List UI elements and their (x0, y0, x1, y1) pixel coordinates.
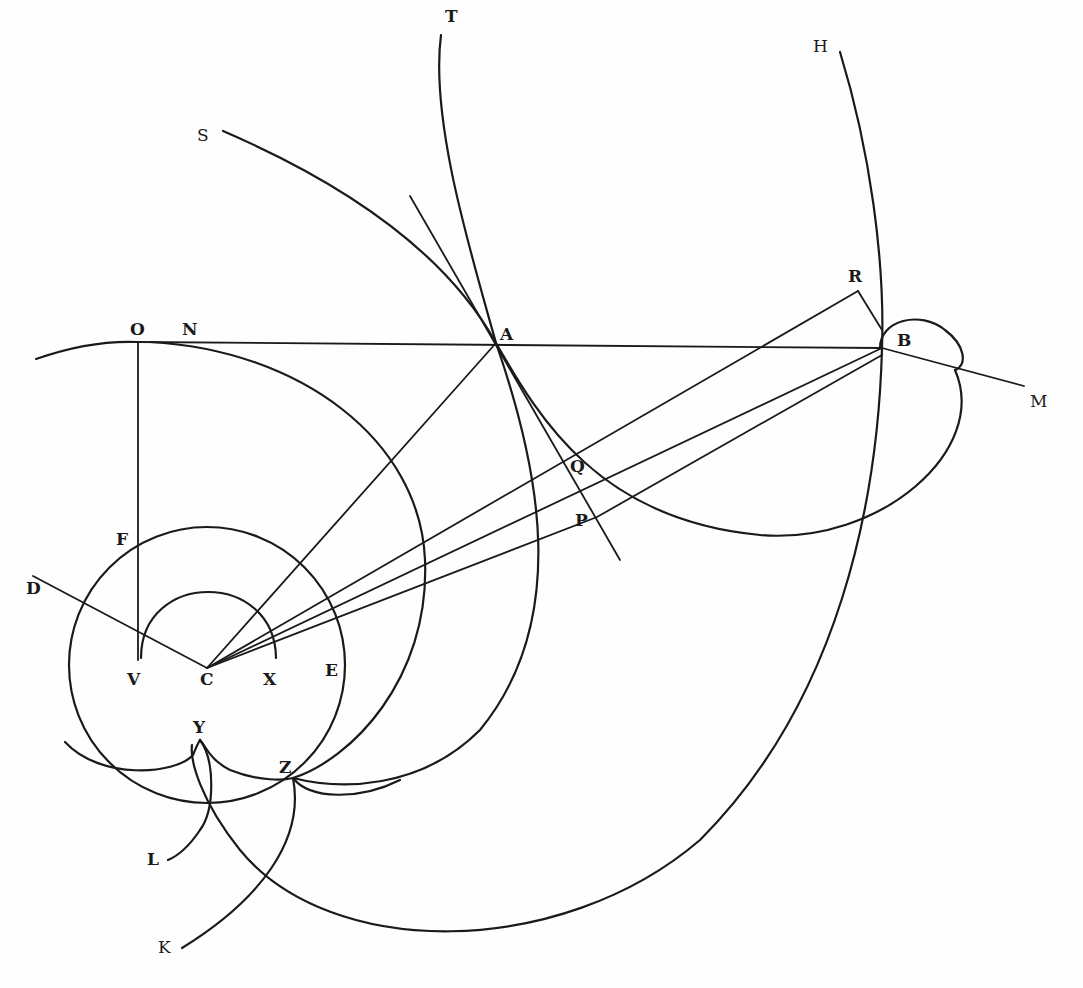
label-S: S (197, 127, 209, 144)
label-E: E (325, 662, 338, 679)
line-CB (207, 348, 882, 668)
label-K: K (158, 939, 171, 956)
geometry-figure (0, 0, 1083, 988)
tangent-line-A-P (410, 196, 620, 560)
label-L: L (147, 851, 159, 868)
label-B: B (897, 332, 911, 349)
label-M: M (1030, 393, 1047, 410)
label-T: T (445, 8, 458, 25)
label-C: C (200, 671, 214, 688)
label-D: D (26, 580, 41, 597)
label-A: A (500, 326, 513, 343)
line-BM (882, 348, 1024, 386)
arc-left-of-O (36, 342, 138, 359)
curve-S-A-B (223, 131, 962, 536)
label-Q: Q (570, 458, 585, 475)
line-DC (33, 576, 207, 668)
label-R: R (848, 268, 862, 285)
spiral-N-Z (150, 342, 425, 778)
label-H: H (813, 38, 828, 55)
line-C-P (207, 355, 882, 668)
label-Y: Y (193, 719, 205, 736)
curve-left-to-Y (65, 740, 200, 770)
label-O: O (130, 321, 145, 338)
label-N: N (182, 321, 198, 338)
loop-at-B (880, 320, 963, 370)
line-RB (858, 291, 882, 330)
arc-V-X (141, 592, 276, 658)
label-P: P (575, 512, 588, 529)
circle-F-E (69, 527, 345, 803)
label-X: X (263, 671, 276, 688)
label-Z: Z (279, 759, 291, 776)
label-V: V (127, 671, 140, 688)
diagram-canvas: T H S R O N A B M Q P F D V C X E Y Z L … (0, 0, 1083, 988)
label-F: F (116, 531, 128, 548)
line-CA (207, 343, 496, 668)
